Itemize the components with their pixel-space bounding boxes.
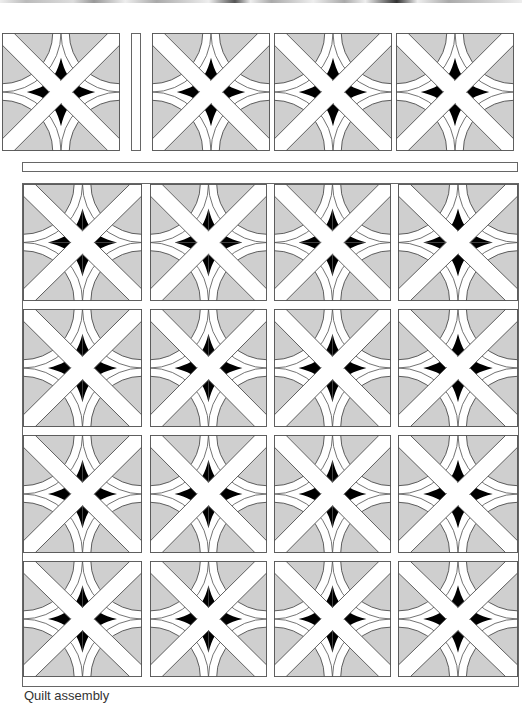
quilt-block	[150, 309, 267, 427]
figure-caption: Quilt assembly	[24, 689, 109, 702]
quilt-main-grid	[22, 183, 519, 687]
quilt-block	[23, 309, 142, 427]
quilt-block	[398, 435, 518, 553]
quilt-block	[23, 435, 142, 553]
quilt-block	[23, 184, 142, 301]
quilt-block	[23, 561, 142, 677]
vertical-sash-strip	[131, 33, 141, 151]
quilt-block-top-2	[152, 33, 270, 151]
quilt-block-top-1	[2, 33, 120, 151]
quilt-block	[398, 309, 518, 427]
quilt-block	[398, 561, 518, 677]
quilt-block	[274, 561, 391, 677]
quilt-block	[274, 435, 391, 553]
quilt-block-top-3	[274, 33, 392, 151]
quilt-block	[150, 184, 267, 301]
quilt-block	[274, 184, 391, 301]
quilt-block	[150, 561, 267, 677]
scan-artifact-strip	[0, 0, 522, 3]
quilt-block	[150, 435, 267, 553]
quilt-block	[398, 184, 518, 301]
quilt-block	[274, 309, 391, 427]
horizontal-sash-strip	[22, 162, 518, 172]
quilt-block-top-4	[396, 33, 514, 151]
